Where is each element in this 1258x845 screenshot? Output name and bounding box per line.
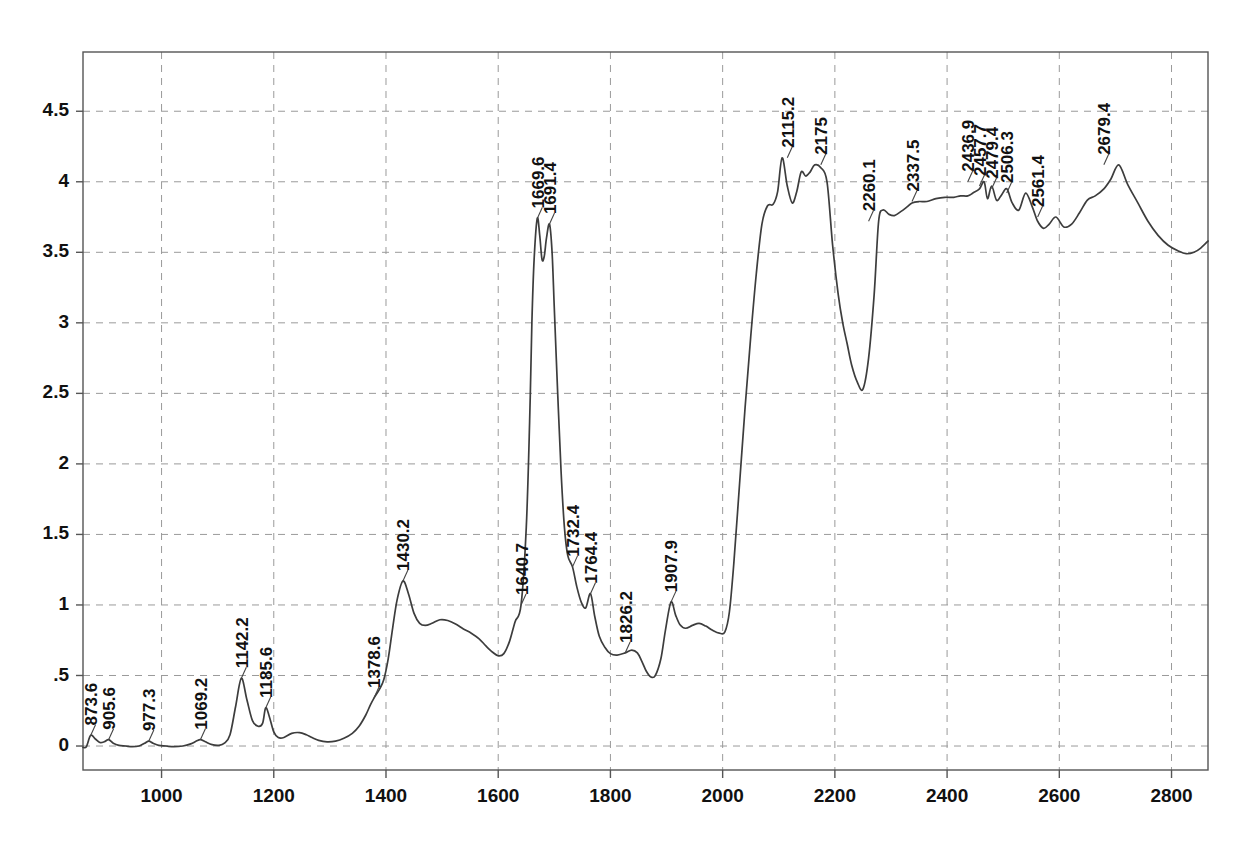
peak-label-1142.2: 1142.2 <box>233 617 252 668</box>
y-tick-label-1: 1 <box>58 593 69 614</box>
x-tick-label-2000: 2000 <box>702 785 744 806</box>
peak-label-1640.7: 1640.7 <box>513 543 532 595</box>
x-tick-label-2800: 2800 <box>1150 785 1192 806</box>
y-tick-label-4: 4 <box>58 170 69 191</box>
y-axis: 0.511.522.533.544.5 <box>43 99 83 755</box>
peak-label-905.6: 905.6 <box>100 687 119 730</box>
peak-label-1069.2: 1069.2 <box>192 678 211 730</box>
peak-label-2337.5: 2337.5 <box>904 140 923 192</box>
x-tick-label-2200: 2200 <box>814 785 856 806</box>
spectrum-chart-page: 0.511.522.533.544.5100012001400160018002… <box>0 0 1258 845</box>
peak-label-1732.4: 1732.4 <box>564 504 583 557</box>
peak-label-977.3: 977.3 <box>140 689 159 732</box>
y-tick-label-2.5: 2.5 <box>43 381 70 402</box>
x-tick-label-1600: 1600 <box>477 785 519 806</box>
x-tick-label-1200: 1200 <box>253 785 295 806</box>
peak-label-2260.1: 2260.1 <box>860 159 879 211</box>
peak-label-1378.6: 1378.6 <box>365 636 384 688</box>
x-axis: 1000120014001600180020002200240026002800 <box>140 770 1192 806</box>
x-tick-label-2400: 2400 <box>926 785 968 806</box>
peak-label-1185.6: 1185.6 <box>257 647 276 698</box>
peak-label-1691.4: 1691.4 <box>541 162 560 215</box>
peak-label-1907.9: 1907.9 <box>662 540 681 592</box>
peak-label-2175: 2175 <box>812 117 831 155</box>
peak-label-1826.2: 1826.2 <box>617 591 636 643</box>
y-tick-label-2: 2 <box>58 452 69 473</box>
y-tick-label-3.5: 3.5 <box>43 240 70 261</box>
y-tick-label-0: 0 <box>58 734 69 755</box>
x-tick-label-1800: 1800 <box>589 785 631 806</box>
peak-label-1430.2: 1430.2 <box>394 519 413 571</box>
peak-label-873.6: 873.6 <box>82 683 101 726</box>
x-tick-label-1000: 1000 <box>140 785 182 806</box>
x-tick-label-2600: 2600 <box>1038 785 1080 806</box>
peak-label-2506.3: 2506.3 <box>998 131 1017 183</box>
y-tick-label-3: 3 <box>58 311 69 332</box>
y-tick-label-1.5: 1.5 <box>43 522 70 543</box>
peak-label-1764.4: 1764.4 <box>582 531 601 584</box>
peak-label-2561.4: 2561.4 <box>1029 154 1048 207</box>
spectrum-chart: 0.511.522.533.544.5100012001400160018002… <box>0 0 1258 845</box>
peak-label-2115.2: 2115.2 <box>779 97 798 148</box>
peak-label-2679.4: 2679.4 <box>1095 102 1114 155</box>
y-tick-label-.5: .5 <box>53 664 69 685</box>
y-tick-label-4.5: 4.5 <box>43 99 70 120</box>
x-tick-label-1400: 1400 <box>365 785 407 806</box>
